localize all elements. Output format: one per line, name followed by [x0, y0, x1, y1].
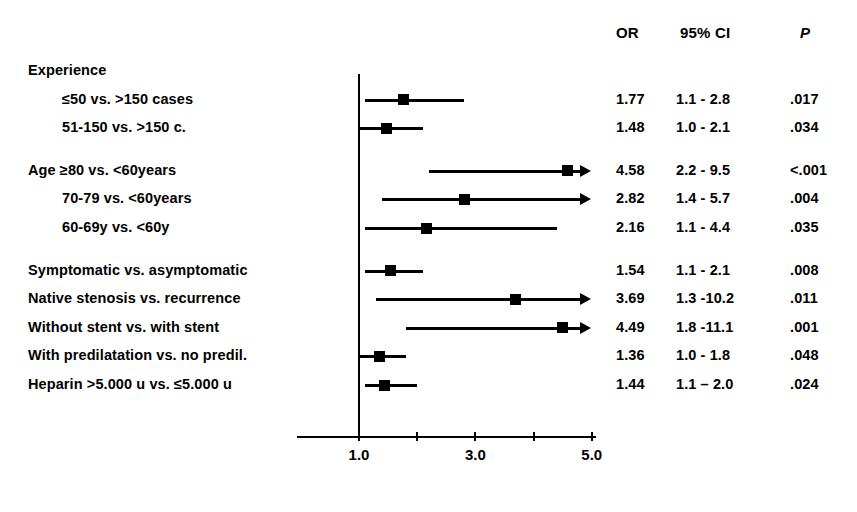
confidence-interval-line — [365, 227, 557, 230]
odds-ratio-marker — [510, 294, 521, 305]
cell-ci: 1.4 - 5.7 — [676, 190, 772, 206]
ci-upper-cap — [415, 384, 417, 387]
odds-ratio-marker — [374, 351, 385, 362]
ci-upper-cap — [462, 99, 464, 102]
row-label: Age ≥80 vs. <60years — [28, 162, 176, 178]
cell-p: .008 — [790, 262, 842, 278]
cell-or: 2.16 — [616, 219, 662, 235]
odds-ratio-marker — [459, 194, 470, 205]
odds-ratio-marker — [381, 123, 392, 134]
cell-or: 4.49 — [616, 319, 662, 335]
cell-ci: 1.0 - 2.1 — [676, 119, 772, 135]
ci-lower-cap — [365, 384, 367, 387]
ci-truncated-arrow — [580, 165, 591, 177]
cell-p: <.001 — [790, 162, 842, 178]
cell-or: 1.44 — [616, 376, 662, 392]
ci-upper-cap — [404, 355, 406, 358]
forest-plot-figure: OR 95% CI P Experience≤50 vs. >150 cases… — [0, 0, 857, 512]
x-axis-tick — [591, 432, 593, 441]
odds-ratio-marker — [562, 165, 573, 176]
row-label: Symptomatic vs. asymptomatic — [28, 262, 248, 278]
confidence-interval-line — [365, 99, 464, 102]
confidence-interval-line — [376, 298, 580, 301]
ci-truncated-arrow — [580, 322, 591, 334]
odds-ratio-marker — [421, 223, 432, 234]
odds-ratio-marker — [379, 380, 390, 391]
ci-upper-cap — [421, 127, 423, 130]
ci-truncated-arrow — [580, 193, 591, 205]
ci-lower-cap — [365, 227, 367, 230]
ci-truncated-arrow — [580, 293, 591, 305]
row-label: ≤50 vs. >150 cases — [62, 91, 193, 107]
cell-or: 1.54 — [616, 262, 662, 278]
cell-p: .048 — [790, 347, 842, 363]
row-label: Without stent vs. with stent — [28, 319, 219, 335]
cell-or: 1.77 — [616, 91, 662, 107]
column-header-ci: 95% CI — [680, 24, 730, 41]
row-label: Native stenosis vs. recurrence — [28, 290, 241, 306]
reference-line — [358, 74, 360, 438]
x-axis-line — [297, 436, 596, 438]
row-label: With predilatation vs. no predil. — [28, 347, 247, 363]
cell-or: 3.69 — [616, 290, 662, 306]
confidence-interval-line — [406, 327, 580, 330]
confidence-interval-line — [359, 127, 423, 130]
confidence-interval-line — [429, 170, 580, 173]
cell-ci: 1.1 - 2.8 — [676, 91, 772, 107]
x-axis-tick — [533, 432, 535, 441]
x-axis-tick — [358, 432, 360, 441]
cell-ci: 1.0 - 1.8 — [676, 347, 772, 363]
cell-or: 1.48 — [616, 119, 662, 135]
confidence-interval-line — [382, 198, 580, 201]
cell-or: 1.36 — [616, 347, 662, 363]
ci-lower-cap — [365, 270, 367, 273]
x-axis-tick — [474, 432, 476, 441]
odds-ratio-marker — [385, 265, 396, 276]
odds-ratio-marker — [398, 94, 409, 105]
x-axis-tick-label: 1.0 — [334, 446, 384, 463]
group-header-label: Experience — [28, 62, 106, 78]
column-header-p: P — [800, 24, 810, 41]
ci-upper-cap — [421, 270, 423, 273]
plot-area: 1.03.05.0 — [0, 0, 857, 512]
cell-ci: 1.1 - 4.4 — [676, 219, 772, 235]
odds-ratio-marker — [557, 322, 568, 333]
cell-ci: 2.2 - 9.5 — [676, 162, 772, 178]
ci-upper-cap — [555, 227, 557, 230]
ci-lower-cap — [359, 355, 361, 358]
cell-p: .001 — [790, 319, 842, 335]
cell-p: .017 — [790, 91, 842, 107]
ci-lower-cap — [359, 127, 361, 130]
x-axis-tick — [416, 432, 418, 441]
cell-ci: 1.1 - 2.1 — [676, 262, 772, 278]
x-axis-tick-label: 3.0 — [450, 446, 500, 463]
row-label: Heparin >5.000 u vs. ≤5.000 u — [28, 376, 232, 392]
cell-or: 2.82 — [616, 190, 662, 206]
cell-ci: 1.1 – 2.0 — [676, 376, 772, 392]
row-label: 51-150 vs. >150 c. — [62, 119, 186, 135]
row-label: 70-79 vs. <60years — [62, 190, 192, 206]
column-header-or: OR — [616, 24, 639, 41]
cell-p: .011 — [790, 290, 842, 306]
cell-p: .024 — [790, 376, 842, 392]
confidence-interval-line — [359, 355, 406, 358]
cell-p: .034 — [790, 119, 842, 135]
x-axis-tick-label: 5.0 — [567, 446, 617, 463]
cell-or: 4.58 — [616, 162, 662, 178]
cell-p: .004 — [790, 190, 842, 206]
confidence-interval-line — [365, 270, 423, 273]
cell-ci: 1.3 -10.2 — [676, 290, 772, 306]
ci-lower-cap — [365, 99, 367, 102]
confidence-interval-line — [365, 384, 417, 387]
cell-p: .035 — [790, 219, 842, 235]
row-label: 60-69y vs. <60y — [62, 219, 170, 235]
cell-ci: 1.8 -11.1 — [676, 319, 772, 335]
